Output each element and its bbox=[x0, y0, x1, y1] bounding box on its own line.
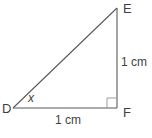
side-label-df: 1 cm bbox=[55, 113, 81, 127]
vertex-label-f: F bbox=[123, 105, 131, 120]
triangle-svg: D E F x 1 cm 1 cm bbox=[0, 0, 152, 138]
vertex-label-e: E bbox=[123, 1, 132, 16]
triangle-diagram: D E F x 1 cm 1 cm bbox=[0, 0, 152, 138]
side-label-ef: 1 cm bbox=[121, 55, 147, 69]
angle-label-x: x bbox=[27, 91, 35, 105]
right-angle-marker bbox=[107, 98, 117, 108]
vertex-label-d: D bbox=[2, 101, 11, 116]
